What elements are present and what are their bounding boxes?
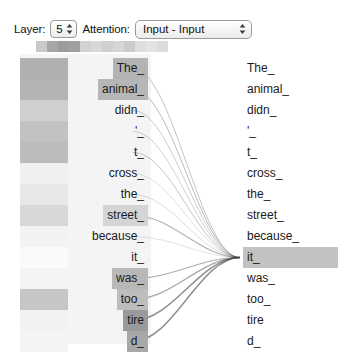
stepper-updown-icon[interactable] — [66, 23, 73, 35]
head-cell-7[interactable] — [113, 41, 124, 52]
head-cell-5[interactable] — [91, 41, 102, 52]
target-token[interactable]: The_ — [243, 58, 278, 79]
attention-edge — [133, 258, 240, 342]
target-token[interactable]: it_ — [243, 247, 338, 268]
attention-edge — [133, 258, 240, 300]
layer-value: 5 — [55, 23, 63, 35]
target-token[interactable]: because_ — [243, 226, 303, 247]
attention-visualization: The_animal_didn_'_t_cross_the_street_bec… — [0, 54, 350, 350]
head-cell-1[interactable] — [47, 41, 58, 52]
layer-stepper[interactable]: 5 — [50, 20, 77, 38]
source-token[interactable]: the_ — [117, 184, 148, 205]
source-token[interactable]: '_ — [131, 121, 148, 142]
source-token[interactable]: cross_ — [105, 163, 148, 184]
target-token[interactable]: the_ — [243, 184, 274, 205]
source-token[interactable]: d_ — [127, 331, 148, 352]
attention-edges — [0, 54, 350, 350]
source-token[interactable]: t_ — [130, 142, 148, 163]
source-token[interactable]: it_ — [127, 247, 148, 268]
target-token[interactable]: was_ — [243, 268, 279, 289]
head-cell-0[interactable] — [36, 41, 47, 52]
head-cell-6[interactable] — [102, 41, 113, 52]
target-token[interactable]: animal_ — [243, 79, 293, 100]
source-token[interactable]: didn_ — [111, 100, 148, 121]
target-token[interactable]: tire — [243, 310, 268, 331]
head-cell-10[interactable] — [146, 41, 157, 52]
source-token[interactable]: street_ — [103, 205, 148, 226]
attention-edge — [133, 69, 240, 258]
attention-edge — [133, 132, 240, 258]
attention-edge — [133, 174, 240, 258]
head-cell-8[interactable] — [124, 41, 135, 52]
target-token[interactable]: cross_ — [243, 163, 286, 184]
target-token[interactable]: street_ — [243, 205, 288, 226]
attention-edge — [133, 153, 240, 258]
source-token[interactable]: animal_ — [98, 79, 148, 100]
attention-select[interactable]: Input - Input — [135, 20, 252, 39]
head-cell-9[interactable] — [135, 41, 146, 52]
target-token[interactable]: '_ — [243, 121, 260, 142]
head-cell-3[interactable] — [69, 41, 80, 52]
source-token[interactable]: tire — [123, 310, 148, 331]
layer-label: Layer: — [14, 23, 45, 35]
head-cell-11[interactable] — [157, 41, 168, 52]
source-token[interactable]: The_ — [113, 58, 148, 79]
target-token[interactable]: too_ — [243, 289, 274, 310]
attention-edge — [133, 90, 240, 258]
source-token[interactable]: was_ — [112, 268, 148, 289]
controls-toolbar: Layer: 5 Attention: Input - Input — [14, 19, 252, 39]
target-token[interactable]: t_ — [243, 142, 261, 163]
select-updown-icon[interactable] — [239, 23, 246, 35]
attention-head-selector[interactable] — [36, 41, 168, 52]
head-cell-4[interactable] — [80, 41, 91, 52]
source-token[interactable]: because_ — [88, 226, 148, 247]
attention-edge — [133, 111, 240, 258]
source-token[interactable]: too_ — [117, 289, 148, 310]
attention-select-value: Input - Input — [143, 23, 204, 35]
attention-edge — [133, 258, 240, 321]
attention-label: Attention: — [82, 23, 130, 35]
target-token[interactable]: d_ — [243, 331, 264, 352]
head-cell-2[interactable] — [58, 41, 69, 52]
target-token[interactable]: didn_ — [243, 100, 280, 121]
